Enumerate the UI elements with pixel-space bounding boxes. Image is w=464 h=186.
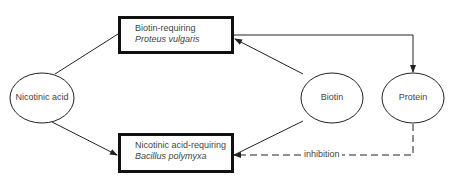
inhibition-label: inhibition [302, 149, 342, 159]
edge-nicotinic-to-proteus [55, 34, 118, 74]
node-protein-label: Protein [383, 92, 443, 102]
node-biotin-label: Biotin [302, 92, 362, 102]
edge-nicotinic-to-bacillus [52, 122, 117, 155]
box-label: Biotin-requiring [135, 23, 231, 34]
box-nicotinic-requiring-bacillus: Nicotinic acid-requiring Bacillus polymy… [118, 133, 234, 173]
edge-proteus-to-protein [232, 35, 413, 72]
edge-biotin-to-proteus [235, 39, 303, 74]
box-label: Nicotinic acid-requiring [135, 140, 231, 151]
species-name: Proteus vulgaris [135, 34, 231, 45]
species-name: Bacillus polymyxa [135, 151, 231, 162]
box-biotin-requiring-proteus: Biotin-requiring Proteus vulgaris [118, 16, 234, 54]
edge-biotin-to-bacillus [234, 121, 303, 155]
node-nicotinic-acid-label: Nicotinic acid [10, 92, 74, 102]
